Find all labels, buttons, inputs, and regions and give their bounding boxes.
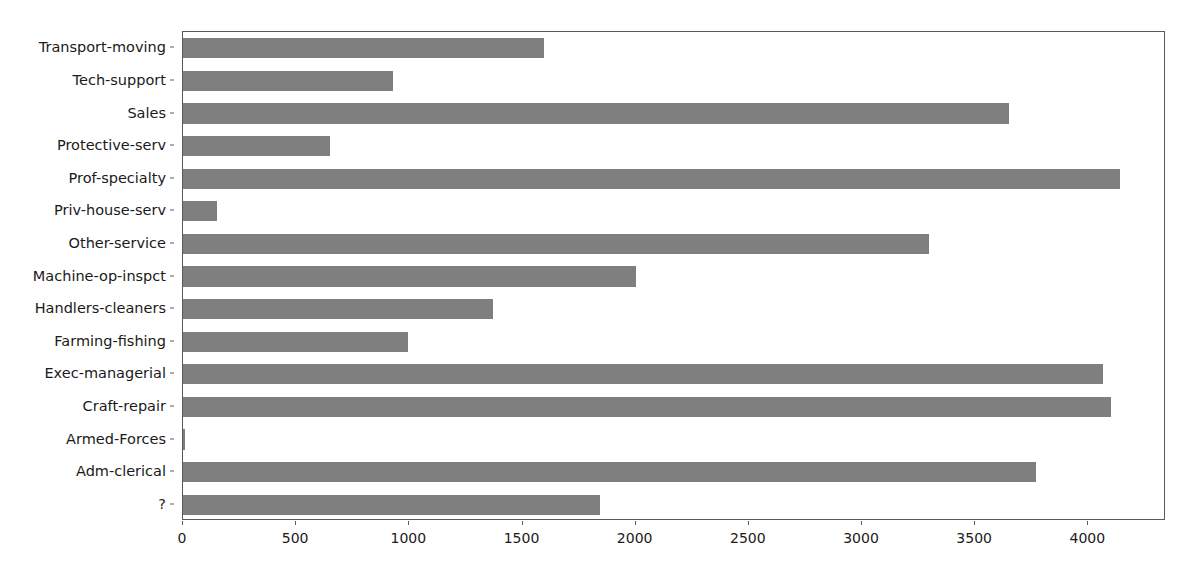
x-tick-mark xyxy=(295,521,296,525)
y-tick-label: Transport-moving xyxy=(39,40,166,55)
bar xyxy=(183,462,1036,482)
y-tick-mark xyxy=(170,79,174,80)
bar-row xyxy=(183,71,1164,91)
y-tick-label: Sales xyxy=(127,105,166,120)
bar-row xyxy=(183,462,1164,482)
x-tick-label: 3500 xyxy=(956,531,992,545)
y-tick-label: ? xyxy=(158,496,166,511)
y-tick-mark xyxy=(170,340,174,341)
y-tick-mark xyxy=(170,438,174,439)
bar xyxy=(183,169,1120,189)
bar xyxy=(183,495,600,515)
y-tick-label: Other-service xyxy=(69,236,166,251)
x-tick-mark xyxy=(1087,521,1088,525)
y-tick-label: Machine-op-inspct xyxy=(33,268,166,283)
y-tick-mark xyxy=(170,471,174,472)
y-tick-mark xyxy=(170,308,174,309)
bar xyxy=(183,71,393,91)
bar-row xyxy=(183,234,1164,254)
bar-chart-figure: Transport-movingTech-supportSalesProtect… xyxy=(0,0,1195,580)
bar-row xyxy=(183,397,1164,417)
x-tick-label: 1500 xyxy=(504,531,540,545)
y-tick-mark xyxy=(170,275,174,276)
y-tick-mark xyxy=(170,373,174,374)
x-tick-mark xyxy=(748,521,749,525)
y-tick-mark xyxy=(170,405,174,406)
x-tick-mark xyxy=(408,521,409,525)
bar-row xyxy=(183,429,1164,449)
x-tick-label: 2500 xyxy=(730,531,766,545)
bar xyxy=(183,429,185,449)
bar-row xyxy=(183,299,1164,319)
y-tick-mark xyxy=(170,177,174,178)
y-tick-mark xyxy=(170,112,174,113)
x-tick-mark xyxy=(182,521,183,525)
x-tick-mark xyxy=(861,521,862,525)
x-tick-label: 1000 xyxy=(391,531,427,545)
bar xyxy=(183,266,636,286)
bar xyxy=(183,397,1111,417)
y-tick-mark xyxy=(170,47,174,48)
y-tick-label: Exec-managerial xyxy=(44,366,166,381)
y-axis-labels: Transport-movingTech-supportSalesProtect… xyxy=(0,31,174,520)
y-tick-label: Armed-Forces xyxy=(66,431,166,446)
bar xyxy=(183,299,493,319)
bar xyxy=(183,234,929,254)
bar-row xyxy=(183,136,1164,156)
x-tick-mark xyxy=(974,521,975,525)
x-tick-label: 2000 xyxy=(617,531,653,545)
x-tick-label: 4000 xyxy=(1070,531,1106,545)
bar-row xyxy=(183,201,1164,221)
y-tick-label: Priv-house-serv xyxy=(54,203,166,218)
y-tick-label: Handlers-cleaners xyxy=(35,301,166,316)
y-tick-label: Protective-serv xyxy=(57,138,166,153)
bar xyxy=(183,332,408,352)
y-tick-mark xyxy=(170,242,174,243)
x-axis-labels: 05001000150020002500300035004000 xyxy=(182,521,1165,561)
bar xyxy=(183,136,330,156)
bar-row xyxy=(183,169,1164,189)
bar-row xyxy=(183,495,1164,515)
x-tick-label: 500 xyxy=(282,531,309,545)
plot-area xyxy=(182,31,1165,520)
bar-row xyxy=(183,266,1164,286)
bar xyxy=(183,103,1009,123)
bar xyxy=(183,201,217,221)
y-tick-label: Craft-repair xyxy=(83,399,166,414)
bar xyxy=(183,38,544,58)
bar-row xyxy=(183,332,1164,352)
x-tick-mark xyxy=(522,521,523,525)
y-tick-label: Tech-support xyxy=(73,73,166,88)
bars-layer xyxy=(183,32,1164,519)
y-tick-label: Prof-specialty xyxy=(69,170,166,185)
y-tick-mark xyxy=(170,503,174,504)
bar-row xyxy=(183,38,1164,58)
bar-row xyxy=(183,364,1164,384)
x-tick-label: 3000 xyxy=(843,531,879,545)
y-tick-label: Farming-fishing xyxy=(54,333,166,348)
x-tick-label: 0 xyxy=(178,531,187,545)
x-tick-mark xyxy=(635,521,636,525)
y-tick-mark xyxy=(170,145,174,146)
bar xyxy=(183,364,1103,384)
y-tick-mark xyxy=(170,210,174,211)
bar-row xyxy=(183,103,1164,123)
y-tick-label: Adm-clerical xyxy=(76,464,166,479)
